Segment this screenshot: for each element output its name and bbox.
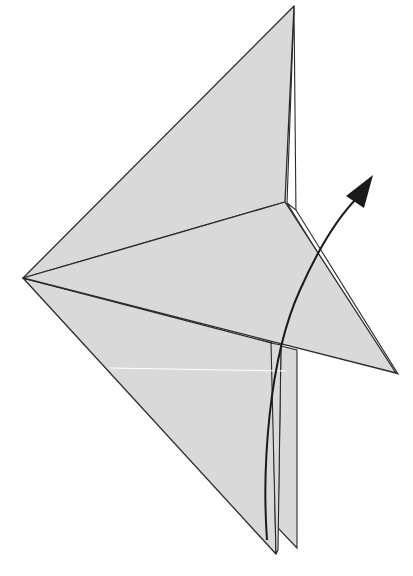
origami-diagram <box>0 0 413 576</box>
fold-arrow-head-icon <box>346 175 373 208</box>
